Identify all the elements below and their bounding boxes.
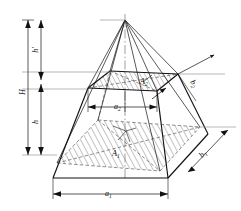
label-base-depth: b1 — [197, 148, 209, 160]
label-upper-height: h' — [31, 47, 40, 53]
dimension-total-height — [22, 20, 34, 155]
figure-canvas: H h' h a1 — [0, 0, 241, 211]
label-top-width: a2 — [114, 102, 121, 112]
dimension-lower-height — [38, 84, 44, 155]
pyramid-frustum-drawing: H h' h a1 — [0, 0, 241, 211]
dimension-base-depth — [188, 130, 228, 172]
label-top-depth: b2 — [187, 78, 199, 89]
dimension-top-width — [88, 88, 157, 112]
label-base-width: a1 — [105, 189, 112, 199]
label-lower-height: h — [31, 120, 40, 124]
base-cross-section-fill — [57, 120, 200, 171]
